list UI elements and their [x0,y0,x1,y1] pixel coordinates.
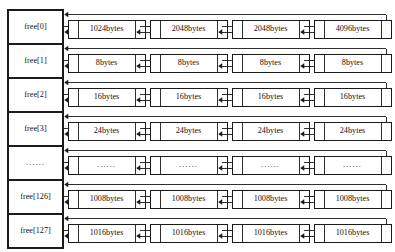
chunk-size-label-6-2: 1016bytes [254,229,288,237]
chunk-size-label-5-0: 1008bytes [90,195,124,203]
chunk-size-label-4-2: ...... [261,161,280,169]
chunk-size-label-4-0: ...... [97,161,116,169]
chunk-size-label-6-3: 1016bytes [336,229,370,237]
loopback-arrow-2 [65,80,69,85]
chunk-size-label-1-1: 8bytes [178,59,199,67]
loopback-arrow-0 [65,12,69,17]
chunk-size-label-6-1: 1016bytes [172,229,206,237]
chunk-size-label-5-1: 1008bytes [172,195,206,203]
free-list-diagram: free[0]1024bytes2048bytes2048bytes4096by… [0,0,395,252]
chunk-size-label-0-3: 4096bytes [336,25,370,33]
chunk-size-label-5-3: 1008bytes [336,195,370,203]
loopback-arrow-3 [65,114,69,119]
chunk-size-label-2-3: 16bytes [340,93,365,101]
chunk-size-label-3-2: 24bytes [258,127,283,135]
chunk-size-label-6-0: 1016bytes [90,229,124,237]
chunk-size-label-1-3: 8bytes [342,59,363,67]
loopback-arrow-6 [65,216,69,221]
chunk-size-label-2-2: 16bytes [258,93,283,101]
array-cell-label-2: free[2] [24,91,46,99]
chunk-size-label-0-1: 2048bytes [172,25,206,33]
chunk-size-label-4-3: ...... [343,161,362,169]
loopback-arrow-5 [65,182,69,187]
array-cell-label-1: free[1] [24,57,46,65]
chunk-size-label-1-0: 8bytes [96,59,117,67]
chunk-size-label-0-2: 2048bytes [254,25,288,33]
array-cell-label-0: free[0] [24,23,46,31]
array-cell-label-5: free[126] [20,193,50,201]
chunk-size-label-2-1: 16bytes [176,93,201,101]
chunk-size-label-3-0: 24bytes [94,127,119,135]
array-cell-label-3: free[3] [24,125,46,133]
chunk-size-label-3-1: 24bytes [176,127,201,135]
chunk-size-label-4-1: ...... [179,161,198,169]
chunk-size-label-5-2: 1008bytes [254,195,288,203]
loopback-arrow-4 [65,148,69,153]
chunk-size-label-3-3: 24bytes [340,127,365,135]
chunk-size-label-2-0: 16bytes [94,93,119,101]
chunk-size-label-0-0: 1024bytes [90,25,124,33]
chunk-size-label-1-2: 8bytes [260,59,281,67]
loopback-arrow-1 [65,46,69,51]
array-cell-label-6: free[127] [20,227,50,235]
array-cell-label-4: ...... [26,159,45,167]
